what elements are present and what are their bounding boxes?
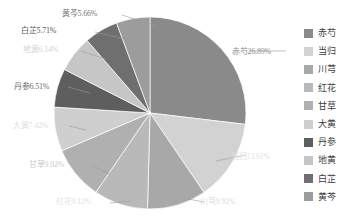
pie-slice[interactable] bbox=[150, 17, 246, 124]
legend-swatch-icon bbox=[304, 156, 313, 165]
legend-item-红花[interactable]: 红花 bbox=[304, 79, 356, 97]
pie-slices bbox=[54, 17, 246, 209]
slice-data-label: 白芷5.71% bbox=[21, 26, 56, 35]
legend-item-label: 红花 bbox=[318, 83, 336, 93]
legend-item-label: 丹参 bbox=[318, 137, 336, 147]
pie-chart-figure: 赤芍26.89%当归13.61%川芎9.92%红花9.12%甘草9.02%大黄7… bbox=[0, 0, 358, 218]
legend-item-label: 地黄 bbox=[318, 155, 336, 165]
legend-item-黄芩[interactable]: 黄芩 bbox=[304, 188, 356, 206]
legend-swatch-icon bbox=[304, 192, 313, 201]
slice-data-label: 赤芍26.89% bbox=[232, 47, 271, 56]
legend-item-label: 当归 bbox=[318, 46, 336, 56]
legend-item-当归[interactable]: 当归 bbox=[304, 42, 356, 60]
legend-swatch-icon bbox=[304, 83, 313, 92]
pie-plot-area: 赤芍26.89%当归13.61%川芎9.92%红花9.12%甘草9.02%大黄7… bbox=[0, 0, 300, 218]
legend-item-大黄[interactable]: 大黄 bbox=[304, 115, 356, 133]
legend-item-白芷[interactable]: 白芷 bbox=[304, 170, 356, 188]
legend-item-川芎[interactable]: 川芎 bbox=[304, 60, 356, 78]
legend-item-甘草[interactable]: 甘草 bbox=[304, 97, 356, 115]
slice-data-label: 大黄7.42% bbox=[13, 121, 48, 130]
legend-swatch-icon bbox=[304, 29, 313, 38]
legend-item-地黄[interactable]: 地黄 bbox=[304, 151, 356, 169]
legend-item-赤芍[interactable]: 赤芍 bbox=[304, 24, 356, 42]
slice-data-label: 当归13.61% bbox=[231, 152, 270, 161]
legend-swatch-icon bbox=[304, 65, 313, 74]
legend-swatch-icon bbox=[304, 174, 313, 183]
legend-item-label: 白芷 bbox=[318, 174, 336, 184]
legend-item-丹参[interactable]: 丹参 bbox=[304, 133, 356, 151]
slice-data-label: 地黄6.14% bbox=[23, 45, 58, 54]
legend-item-label: 赤芍 bbox=[318, 28, 336, 38]
slice-data-label: 红花9.12% bbox=[56, 197, 91, 206]
legend-swatch-icon bbox=[304, 120, 313, 129]
chart-legend: 赤芍当归川芎红花甘草大黄丹参地黄白芷黄芩 bbox=[304, 24, 356, 206]
legend-item-label: 黄芩 bbox=[318, 192, 336, 202]
legend-swatch-icon bbox=[304, 101, 313, 110]
slice-data-label: 甘草9.02% bbox=[29, 160, 64, 169]
slice-data-label: 黄芩5.66% bbox=[62, 9, 97, 18]
slice-data-label: 丹参6.51% bbox=[14, 82, 49, 91]
legend-swatch-icon bbox=[304, 138, 313, 147]
legend-item-label: 甘草 bbox=[318, 101, 336, 111]
legend-item-label: 川芎 bbox=[318, 64, 336, 74]
legend-item-label: 大黄 bbox=[318, 119, 336, 129]
legend-swatch-icon bbox=[304, 47, 313, 56]
slice-data-label: 川芎9.92% bbox=[200, 197, 235, 206]
